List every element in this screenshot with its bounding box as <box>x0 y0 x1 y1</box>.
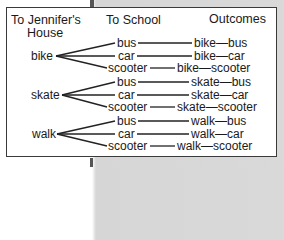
branch-bike-bus: bus <box>117 37 136 49</box>
page-edge-marker-bottom <box>90 158 93 167</box>
root-walk: walk <box>32 128 56 140</box>
outcome-skate-scooter: skate—scooter <box>177 101 257 113</box>
outcome-walk-scooter: walk—scooter <box>177 140 252 152</box>
branch-skate-scooter: scooter <box>108 101 147 113</box>
branch-walk-bus: bus <box>117 115 136 127</box>
root-skate: skate <box>31 89 60 101</box>
tree-diagram-box: To Jennifer's House To School Outcomes b… <box>6 7 277 157</box>
root-bike: bike <box>31 50 53 62</box>
branch-walk-scooter: scooter <box>108 140 147 152</box>
outcome-bike-bus: bike—bus <box>194 37 247 49</box>
branch-bike-scooter: scooter <box>108 62 147 74</box>
outcome-skate-bus: skate—bus <box>191 76 251 88</box>
outcome-walk-bus: walk—bus <box>191 115 246 127</box>
branch-skate-bus: bus <box>117 76 136 88</box>
outcome-bike-scooter: bike—scooter <box>177 62 250 74</box>
